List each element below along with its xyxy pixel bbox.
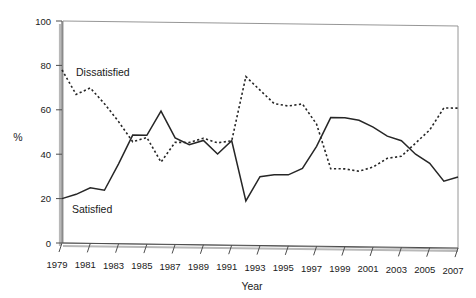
series-line-dissatisfied: [62, 70, 458, 171]
x-tick-label-2003: 2003: [386, 264, 407, 275]
line-chart: 100 80 60 40 20 0 %: [0, 0, 476, 298]
series-label-dissatisfied: Dissatisfied: [76, 66, 130, 78]
x-tick-label-1991: 1991: [216, 261, 237, 272]
x-tick-label-2005: 2005: [414, 264, 435, 275]
data-series-group: [62, 70, 458, 201]
series-label-satisfied: Satisfied: [72, 203, 112, 215]
y-axis-tick-labels: 100 80 60 40 20 0: [35, 16, 51, 249]
x-tick-label-1993: 1993: [244, 262, 265, 273]
plot-frame: [60, 21, 458, 251]
x-tick-label-1999: 1999: [329, 263, 350, 274]
x-tick-label-1989: 1989: [188, 261, 209, 272]
x-tick-label-1997: 1997: [301, 263, 322, 274]
x-tick-label-1995: 1995: [273, 262, 294, 273]
chart-container: 100 80 60 40 20 0 %: [0, 0, 476, 298]
x-tick-label-1981: 1981: [75, 259, 96, 270]
y-tick-label-40: 40: [40, 149, 51, 160]
series-line-satisfied: [62, 111, 458, 201]
y-tick-label-60: 60: [40, 104, 51, 115]
x-tick-label-1983: 1983: [103, 260, 124, 271]
y-axis: 100 80 60 40 20 0 %: [13, 16, 62, 249]
x-axis-tick-labels: 1979 1981 1983 1985 1987 1989 1991 1993 …: [46, 259, 463, 276]
y-tick-label-20: 20: [40, 193, 51, 204]
y-tick-label-80: 80: [40, 60, 51, 71]
x-tick-label-2001: 2001: [358, 263, 379, 274]
y-tick-label-0: 0: [46, 238, 51, 249]
x-tick-label-2007: 2007: [442, 265, 463, 276]
x-tick-label-1979: 1979: [46, 259, 67, 270]
x-tick-label-1987: 1987: [160, 261, 181, 272]
x-tick-label-1985: 1985: [131, 260, 152, 271]
y-tick-label-100: 100: [35, 16, 51, 27]
y-axis-title: %: [13, 131, 22, 143]
x-axis-title: Year: [241, 280, 263, 292]
